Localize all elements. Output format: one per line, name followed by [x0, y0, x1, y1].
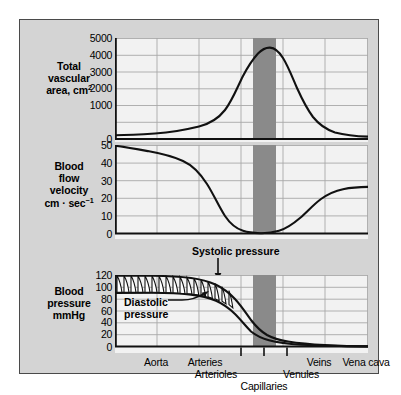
- velocity-ytick-0: 0: [78, 228, 112, 240]
- pressure-ytick-120: 120: [72, 269, 112, 281]
- diastolic-pressure-annotation: Diastolic pressure: [124, 297, 168, 320]
- diastolic-annotation-line2: pressure: [124, 309, 168, 321]
- velocity-ytick-50: 50: [78, 139, 112, 151]
- figure-panel: Total vascular area, cm2: [19, 19, 379, 374]
- velocity-ytick-30: 30: [78, 175, 112, 187]
- total-vascular-area-chart: [115, 38, 368, 142]
- area-ytick-4000: 4000: [72, 49, 112, 61]
- xlabel-venules: Venules: [283, 368, 319, 380]
- diastolic-annotation-line1: Diastolic: [124, 297, 168, 309]
- pressure-ytick-100: 100: [72, 281, 112, 293]
- velocity-ytick-10: 10: [78, 210, 112, 222]
- pressure-ytick-20: 20: [72, 328, 112, 340]
- velocity-ytick-40: 40: [78, 157, 112, 169]
- pressure-ytick-40: 40: [72, 316, 112, 328]
- xlabel-capillaries: Capillaries: [241, 380, 288, 392]
- xlabel-vena-cava: Vena cava: [342, 356, 389, 368]
- capillary-band: [253, 145, 276, 234]
- systolic-pressure-annotation: Systolic pressure: [192, 246, 280, 258]
- xaxis-ticks: [115, 347, 368, 357]
- xlabel-veins: Veins: [307, 356, 332, 368]
- pressure-ytick-0: 0: [72, 341, 112, 353]
- area-plot-svg: [115, 38, 368, 142]
- xlabel-aorta: Aorta: [144, 356, 168, 368]
- area-ytick-3000: 3000: [72, 66, 112, 78]
- pressure-ytick-60: 60: [72, 305, 112, 317]
- area-ytick-2000: 2000: [72, 82, 112, 94]
- xlabel-arteries: Arteries: [188, 356, 223, 368]
- area-ytick-5000: 5000: [72, 32, 112, 44]
- pressure-ytick-80: 80: [72, 293, 112, 305]
- velocity-plot-svg: [115, 145, 368, 239]
- blood-flow-velocity-chart: [115, 145, 368, 239]
- xlabel-arterioles: Arterioles: [195, 368, 237, 380]
- area-ytick-1000: 1000: [72, 99, 112, 111]
- capillary-band: [253, 38, 276, 139]
- velocity-ytick-20: 20: [78, 192, 112, 204]
- diastolic-leader-line: [168, 291, 210, 307]
